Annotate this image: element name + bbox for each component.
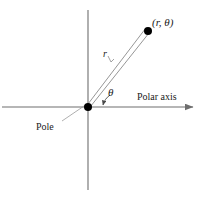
pole-marker-dot: [84, 103, 92, 111]
radius-label: r: [103, 49, 107, 59]
polar-coordinate-diagram: (r, θ) r θ Polar axis Pole: [0, 0, 202, 198]
point-marker-dot: [144, 27, 152, 35]
polar-axis-label: Polar axis: [137, 92, 177, 102]
angle-label: θ: [108, 87, 113, 98]
radius-leader: [108, 56, 114, 62]
point-label: (r, θ): [152, 17, 173, 28]
pole-label: Pole: [36, 122, 54, 132]
